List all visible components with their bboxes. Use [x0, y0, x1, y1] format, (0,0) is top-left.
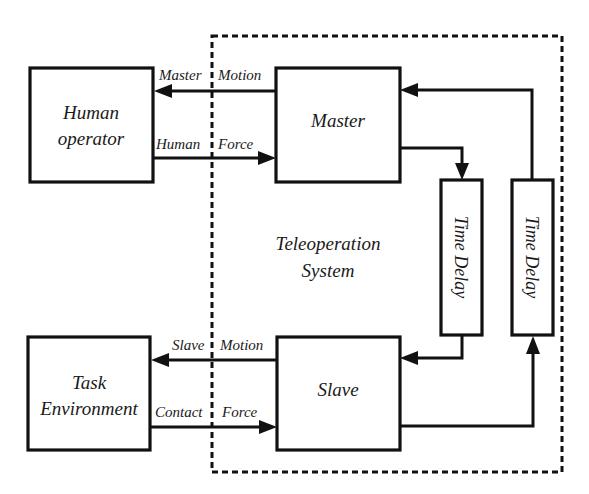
slave-motion-label-word1: Slave — [172, 337, 205, 353]
time-delay-forward-label: Time Delay — [451, 216, 471, 299]
slave-to-delay-arrow — [400, 336, 540, 426]
slave-label: Slave — [317, 379, 358, 400]
task-environment-label-line2: Environment — [39, 398, 138, 419]
human-operator-block: Human operator — [30, 68, 153, 182]
human-operator-label-line1: Human — [62, 102, 119, 123]
master-block: Master — [276, 68, 400, 182]
delay-to-slave-arrow — [400, 335, 462, 365]
task-environment-label-line1: Task — [72, 372, 107, 393]
boundary-label-line2: System — [302, 260, 355, 281]
time-delay-backward-block: Time Delay — [512, 180, 553, 335]
teleoperation-block-diagram: Teleoperation System Human operator Mast… — [0, 0, 589, 494]
human-force-arrow: Human Force — [153, 136, 276, 165]
slave-motion-arrow: Slave Motion — [151, 337, 277, 367]
human-operator-label-line2: operator — [58, 128, 125, 149]
master-to-delay-arrow — [400, 148, 469, 180]
task-environment-block: Task Environment — [28, 337, 150, 450]
master-motion-arrow: Master Motion — [154, 67, 276, 98]
boundary-label-line1: Teleoperation — [276, 233, 381, 254]
time-delay-backward-label: Time Delay — [522, 216, 542, 299]
contact-force-label-word1: Contact — [155, 404, 203, 420]
time-delay-forward-block: Time Delay — [441, 180, 482, 335]
contact-force-label-word2: Force — [221, 404, 258, 420]
human-force-label-word2: Force — [217, 136, 254, 152]
slave-motion-label-word2: Motion — [219, 337, 263, 353]
human-force-label-word1: Human — [155, 136, 200, 152]
contact-force-arrow: Contact Force — [150, 404, 277, 434]
master-motion-label-word1: Master — [158, 67, 202, 83]
master-label: Master — [310, 110, 365, 131]
master-motion-label-word2: Motion — [217, 67, 261, 83]
slave-block: Slave — [277, 337, 400, 450]
